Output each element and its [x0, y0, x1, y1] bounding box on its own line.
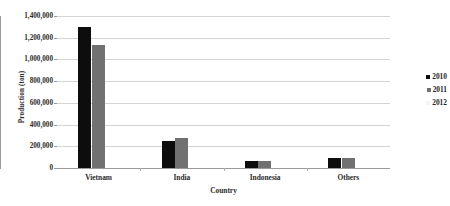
bar-group [245, 16, 286, 168]
legend-item: 2010 [403, 70, 447, 83]
bar [328, 158, 341, 168]
legend-swatch-icon [427, 88, 431, 92]
x-axis-tick-mark [140, 168, 141, 171]
y-axis-tick-label: 1,000,000 [1, 55, 53, 63]
legend-label: 2010 [432, 73, 447, 81]
x-axis-title: Country [57, 186, 390, 195]
bar [258, 161, 271, 168]
bar-group [78, 16, 119, 168]
plot-area [57, 16, 390, 168]
y-axis-tick-label: 1,400,000 [1, 12, 53, 20]
y-axis-line [0, 16, 1, 169]
bar [245, 161, 258, 168]
legend-label: 2012 [432, 99, 447, 107]
legend-label: 2011 [433, 86, 447, 94]
bar-chart: Production (ton) 0200,000400,000600,0008… [0, 0, 450, 206]
bar-group [328, 16, 369, 168]
x-axis-tick-label: Vietnam [59, 173, 139, 182]
bar [162, 141, 175, 168]
y-axis-tick-label: 800,000 [1, 77, 53, 85]
legend-swatch-icon [426, 75, 430, 79]
x-axis-tick-label: Indonesia [225, 173, 305, 182]
bar [78, 27, 91, 168]
bar [342, 158, 355, 168]
x-axis-tick-mark [307, 168, 308, 171]
x-axis-tick-label: Others [308, 173, 388, 182]
legend-item: 2012 [403, 96, 447, 109]
bar [175, 138, 188, 168]
bar-group [162, 16, 203, 168]
x-axis-tick-mark [224, 168, 225, 171]
y-axis-tick-label: 200,000 [1, 142, 53, 150]
y-axis-tick-label: 400,000 [1, 121, 53, 129]
y-axis-tick-label: 600,000 [1, 99, 53, 107]
chart-legend: 201020112012 [403, 70, 447, 109]
bar [92, 45, 105, 168]
x-axis-tick-label: India [142, 173, 222, 182]
y-axis-tick-label: 1,200,000 [1, 34, 53, 42]
y-axis-tick-label: 0 [1, 164, 53, 172]
legend-swatch-icon [426, 101, 430, 105]
legend-item: 2011 [403, 83, 447, 96]
